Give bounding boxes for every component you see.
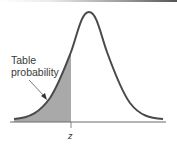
annotation-label: Table probability (11, 54, 59, 78)
annotation-line-1: Table (11, 54, 59, 66)
annotation-arrow-line (29, 80, 45, 97)
annotation-line-2: probability (11, 66, 59, 78)
z-axis-label: z (68, 131, 73, 141)
